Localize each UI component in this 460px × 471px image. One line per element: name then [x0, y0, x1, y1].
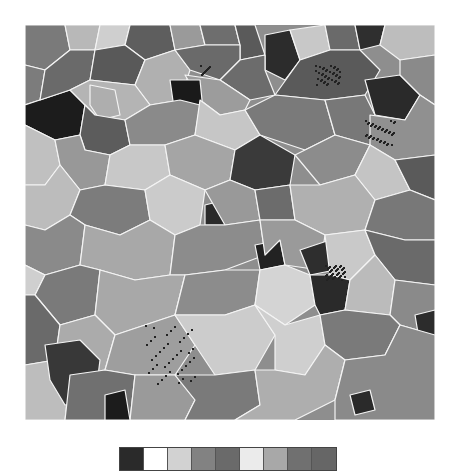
grain	[255, 185, 295, 220]
legend-swatch	[216, 448, 240, 470]
legend-swatch	[168, 448, 192, 470]
legend-swatch	[120, 448, 144, 470]
color-legend	[119, 447, 337, 471]
grain	[325, 25, 360, 50]
legend-swatch	[312, 448, 336, 470]
grain	[105, 390, 130, 420]
legend-swatch	[144, 448, 168, 470]
grain-orientation-map	[25, 25, 435, 420]
legend-swatch	[288, 448, 312, 470]
grain-map-canvas	[25, 25, 435, 420]
grain	[65, 25, 100, 50]
grain	[350, 390, 375, 415]
legend-swatch	[240, 448, 264, 470]
legend-swatch	[264, 448, 288, 470]
grain	[200, 25, 240, 45]
legend-swatch	[192, 448, 216, 470]
